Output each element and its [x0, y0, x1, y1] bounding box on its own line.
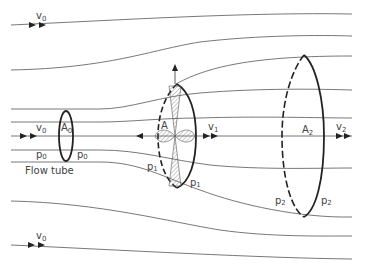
caption-flow-tube: Flow tube	[25, 165, 74, 176]
rotor-disk	[155, 84, 196, 188]
label-p2-right: p2	[321, 195, 332, 207]
label-A: A	[161, 120, 168, 131]
label-v2: v2	[336, 121, 346, 134]
streamline-9	[11, 245, 352, 259]
label-v0-bottom: v0	[36, 230, 46, 243]
label-v1: v1	[208, 121, 218, 134]
propeller-blades	[155, 86, 195, 186]
streamline-4	[11, 89, 352, 109]
label-p0-left: p0	[36, 149, 47, 161]
label-v0-top: v0	[36, 10, 46, 23]
label-p1-right: p1	[190, 177, 201, 189]
streamline-3	[176, 56, 352, 84]
label-v0-mid: v0	[36, 122, 46, 135]
label-A0: A0	[61, 122, 72, 135]
streamline-1	[11, 14, 352, 25]
label-p0-right: p0	[77, 149, 88, 161]
label-A2: A2	[302, 124, 313, 137]
streamline-8	[11, 201, 352, 236]
label-p2-left: p2	[275, 195, 286, 207]
label-p1-left: p1	[147, 161, 158, 173]
flow-tube-diagram: v0 v0 v0 A0 p0 p0 Flow tube A v1 p1 p1 A…	[0, 0, 366, 268]
streamline-2	[11, 36, 352, 70]
